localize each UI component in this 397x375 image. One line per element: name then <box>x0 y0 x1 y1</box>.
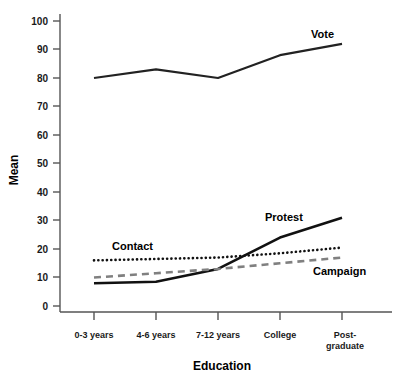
x-axis-title: Education <box>193 359 251 373</box>
series-label-contact: Contact <box>112 240 153 252</box>
x-label-1: 4-6 years <box>136 330 175 340</box>
series-label-vote: Vote <box>311 28 334 40</box>
y-tick-label-60: 60 <box>37 130 49 141</box>
series-label-campaign: Campaign <box>313 265 366 277</box>
y-tick-label-20: 20 <box>37 244 49 255</box>
y-tick-label-100: 100 <box>31 16 48 27</box>
y-axis-ticks <box>53 21 60 306</box>
x-axis-category-labels: 0-3 years 4-6 years 7-12 years College P… <box>74 330 364 351</box>
y-tick-label-40: 40 <box>37 187 49 198</box>
series-label-protest: Protest <box>265 211 303 223</box>
x-label-2: 7-12 years <box>196 330 240 340</box>
y-tick-label-70: 70 <box>37 101 49 112</box>
line-chart-canvas: 100 90 80 70 60 50 40 30 20 10 0 Mean 0-… <box>0 0 397 375</box>
x-label-3: College <box>264 330 297 340</box>
series-line-vote <box>94 44 342 78</box>
y-axis-title: Mean <box>7 155 21 186</box>
y-tick-label-50: 50 <box>37 158 49 169</box>
x-label-4-line1: Post- <box>334 330 357 340</box>
x-axis-ticks <box>94 312 342 320</box>
x-label-0: 0-3 years <box>74 330 113 340</box>
series-annotations: Vote Protest Contact Campaign <box>112 28 366 277</box>
chart-figure: 100 90 80 70 60 50 40 30 20 10 0 Mean 0-… <box>0 0 397 375</box>
y-tick-label-80: 80 <box>37 73 49 84</box>
y-axis-tick-labels: 100 90 80 70 60 50 40 30 20 10 0 <box>31 16 48 312</box>
x-label-4-line2: graduate <box>326 341 364 351</box>
y-tick-label-30: 30 <box>37 215 49 226</box>
y-tick-label-90: 90 <box>37 44 49 55</box>
y-tick-label-0: 0 <box>42 301 48 312</box>
y-tick-label-10: 10 <box>37 272 49 283</box>
